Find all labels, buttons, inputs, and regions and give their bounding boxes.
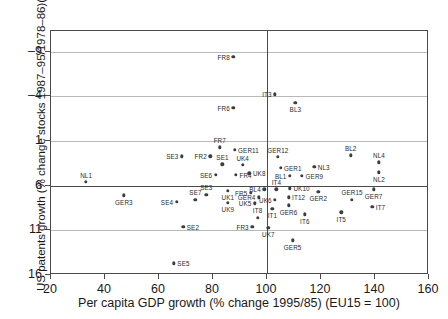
data-point-label: IT6 (300, 218, 309, 225)
data-point-label: SE1 (216, 154, 228, 161)
data-point-label: UK5 (239, 200, 252, 207)
data-point (205, 193, 208, 196)
data-point (371, 205, 374, 208)
x-tick-40 (104, 274, 105, 279)
data-point-label: SE3 (200, 184, 212, 191)
data-point (221, 162, 224, 165)
data-point-label: GER6 (280, 209, 298, 216)
data-point (250, 225, 253, 228)
data-point-label: UK4 (236, 155, 249, 162)
data-point (84, 180, 87, 183)
data-point (267, 226, 270, 229)
data-point (234, 173, 237, 176)
data-point (303, 213, 306, 216)
data-point (350, 198, 353, 201)
data-point-label: NL1 (80, 172, 92, 179)
data-point-label: GER9 (306, 172, 324, 179)
data-point-label: IT3 (262, 91, 271, 98)
x-tick-140 (374, 274, 375, 279)
data-point (276, 155, 279, 158)
data-point (209, 154, 212, 157)
data-point-label: BL4 (249, 186, 261, 193)
data-point-label: BL2 (345, 145, 357, 152)
data-point-label: GER7 (365, 193, 383, 200)
data-point-label: GER15 (341, 189, 362, 196)
x-tick-60 (158, 274, 159, 279)
data-point-label: IT8 (253, 207, 262, 214)
data-point-label: SE6 (200, 171, 212, 178)
data-point (294, 101, 297, 104)
data-point (287, 204, 290, 207)
data-point-label: IT7 (376, 204, 385, 211)
data-point-label: SE3 (166, 153, 178, 160)
data-point (226, 189, 229, 192)
gridline-y-6 (51, 141, 427, 142)
data-point (180, 154, 183, 157)
gridline-y-11 (51, 96, 427, 97)
data-point-label: GER2 (310, 195, 328, 202)
data-point (279, 166, 282, 169)
x-tick-100 (266, 274, 267, 279)
data-point-label: FR2 (195, 153, 207, 160)
data-point-label: GER11 (238, 146, 259, 153)
data-point-label: SE5 (177, 260, 189, 267)
data-point-label: GER12 (267, 147, 288, 154)
data-point (253, 202, 256, 205)
data-point-label: UK6 (259, 196, 272, 203)
scatter-chart-figure: FR8FR6IT3BL3FR7GER11SE3FR2SE1UK4SE6FR4UK… (0, 0, 448, 319)
x-tick-label-160: 160 (418, 282, 439, 296)
data-point-label: IT4 (272, 179, 281, 186)
data-point-label: SE2 (187, 223, 199, 230)
data-point-label: UK10 (293, 185, 309, 192)
data-point (241, 163, 244, 166)
data-point-label: NL2 (373, 176, 385, 183)
data-point (377, 171, 380, 174)
data-point (291, 238, 294, 241)
data-point-label: UK9 (222, 206, 235, 213)
data-point (218, 145, 221, 148)
data-point (214, 173, 217, 176)
data-point-label: FR3 (236, 223, 248, 230)
data-point-label: IT5 (337, 216, 346, 223)
data-point (122, 194, 125, 197)
x-tick-20 (50, 274, 51, 279)
gridline-y-16 (51, 52, 427, 53)
x-tick-label-100: 100 (256, 282, 277, 296)
data-point-label: FR7 (214, 137, 226, 144)
data-point (317, 190, 320, 193)
data-point (263, 187, 266, 190)
x-tick-120 (320, 274, 321, 279)
data-point-label: FR6 (218, 104, 230, 111)
x-tick-label-120: 120 (310, 282, 331, 296)
data-point (377, 161, 380, 164)
data-point-label: UK8 (253, 170, 266, 177)
data-point-label: BL3 (290, 106, 302, 113)
gridline-y--4 (51, 230, 427, 231)
data-point (175, 200, 178, 203)
data-point (288, 174, 291, 177)
data-point (194, 198, 197, 201)
y-axis-title: US patents growth (% change stocks 1987–… (35, 1, 47, 291)
data-point (226, 201, 229, 204)
data-point (232, 55, 235, 58)
plot-area: FR8FR6IT3BL3FR7GER11SE3FR2SE1UK4SE6FR4UK… (50, 30, 428, 274)
data-point (273, 198, 276, 201)
data-point-label: NL4 (373, 152, 385, 159)
x-tick-label-80: 80 (205, 282, 219, 296)
data-point (340, 211, 343, 214)
data-point (288, 187, 291, 190)
data-point-label: SE7 (189, 189, 201, 196)
x-tick-label-40: 40 (97, 282, 111, 296)
data-point (232, 106, 235, 109)
data-point (233, 148, 236, 151)
data-point-label: GER1 (284, 164, 302, 171)
data-point (182, 225, 185, 228)
data-point (287, 196, 290, 199)
data-point-label: IT1 (268, 212, 277, 219)
x-axis-title: Per capita GDP growth (% change 1995/85)… (50, 296, 428, 310)
data-point (172, 262, 175, 265)
data-point-label: UK7 (262, 231, 275, 238)
x-tick-160 (428, 274, 429, 279)
data-point (349, 154, 352, 157)
data-point-label: NL3 (318, 163, 330, 170)
